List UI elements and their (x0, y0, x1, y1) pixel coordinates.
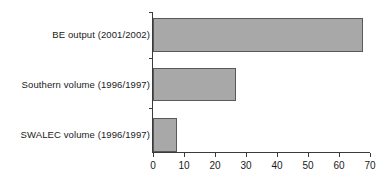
x-axis-tick (246, 153, 247, 157)
x-axis-tick-label: 0 (150, 160, 156, 172)
bar-be-output (153, 18, 363, 52)
x-axis-tick (153, 153, 154, 157)
x-axis-tick (215, 153, 216, 157)
x-axis-tick-label: 10 (178, 160, 189, 172)
x-axis-tick-label: 20 (209, 160, 220, 172)
category-label-swalec-volume: SWALEC volume (1996/1997) (0, 129, 150, 140)
category-label-southern-volume: Southern volume (1996/1997) (0, 79, 150, 90)
x-axis-tick-label: 30 (240, 160, 251, 172)
x-axis-tick-label: 50 (302, 160, 313, 172)
x-axis-tick (339, 153, 340, 157)
x-axis-tick-label: 60 (333, 160, 344, 172)
y-axis-tick (149, 108, 153, 109)
bar-swalec-volume (153, 118, 177, 152)
bar-southern-volume (153, 68, 236, 101)
y-axis-tick (149, 12, 153, 13)
y-axis-tick (149, 58, 153, 59)
category-label-be-output: BE output (2001/2002) (0, 29, 150, 40)
x-axis-tick-label: 40 (271, 160, 282, 172)
x-axis-tick (184, 153, 185, 157)
bar-chart: BE output (2001/2002) Southern volume (1… (0, 0, 382, 188)
x-axis-tick (370, 153, 371, 157)
x-axis-tick-label: 70 (364, 160, 375, 172)
x-axis-tick (277, 153, 278, 157)
x-axis-tick (308, 153, 309, 157)
plot-area: 0 10 20 30 40 50 60 70 (153, 0, 370, 188)
